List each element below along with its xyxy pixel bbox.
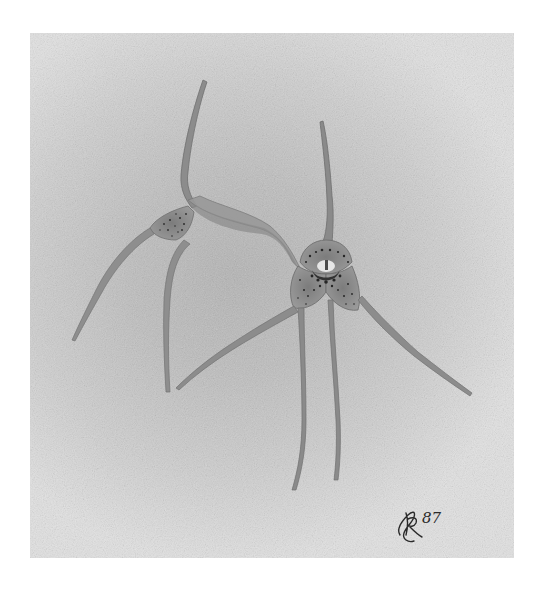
- right-tail-2: [328, 300, 340, 480]
- right-lateral-tail: [358, 296, 472, 396]
- left-lower-tail: [164, 240, 190, 392]
- left-dorsal-tail: [181, 80, 207, 208]
- left-lateral-tail: [72, 228, 154, 341]
- monogram-icon: [392, 505, 426, 547]
- right-left-tail: [176, 306, 298, 390]
- right-dorsal-tail: [320, 121, 333, 244]
- right-column: [325, 260, 328, 270]
- left-speckled-sepal: [150, 206, 194, 240]
- left-hood: [188, 196, 300, 268]
- right-tail-1: [292, 308, 306, 490]
- right-flower: [176, 121, 472, 490]
- artist-signature: 87: [392, 505, 452, 547]
- signature-year: 87: [422, 509, 441, 527]
- orchid-illustration: [0, 0, 542, 593]
- left-flower: [72, 80, 300, 392]
